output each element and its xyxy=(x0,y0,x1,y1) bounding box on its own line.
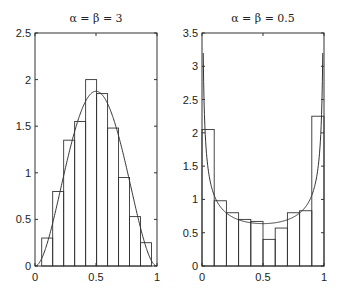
histogram-bar xyxy=(287,213,299,266)
figure: α = β = 300.511.522.500.51 α = β = 0.500… xyxy=(0,0,340,294)
histogram-bars xyxy=(202,116,324,266)
x-tick-label: 0 xyxy=(199,271,205,283)
density-curve xyxy=(35,91,157,266)
y-tick-label: 2 xyxy=(192,127,198,139)
histogram-bar xyxy=(202,130,214,266)
y-tick-label: 0.5 xyxy=(16,213,31,225)
y-tick-label: 1 xyxy=(192,193,198,205)
y-tick-label: 1.5 xyxy=(16,120,31,132)
y-tick-label: 3.5 xyxy=(183,27,198,39)
y-tick-label: 0 xyxy=(192,260,198,272)
histogram-bar xyxy=(226,213,238,266)
histogram-bar xyxy=(86,80,97,266)
histogram-bar xyxy=(64,140,75,266)
histogram-bar xyxy=(251,221,263,266)
histogram-bar xyxy=(300,211,312,266)
y-tick-label: 2.5 xyxy=(183,94,198,106)
histogram-bar xyxy=(239,219,251,266)
histogram-bar xyxy=(119,177,130,266)
chart-title: α = β = 3 xyxy=(69,12,122,25)
histogram-bar xyxy=(75,122,86,266)
beta-histograms-figure: α = β = 300.511.522.500.51 α = β = 0.500… xyxy=(0,0,340,294)
x-tick-label: 0 xyxy=(32,271,38,283)
y-tick-label: 2.5 xyxy=(16,27,31,39)
y-tick-label: 3 xyxy=(192,60,198,72)
panel-alpha-beta-3: α = β = 300.511.522.500.51 xyxy=(16,12,160,283)
axes-box xyxy=(35,33,157,266)
y-tick-label: 2 xyxy=(25,74,31,86)
histogram-bar xyxy=(97,94,108,266)
histogram-bar xyxy=(275,228,287,266)
x-tick-label: 1 xyxy=(154,271,160,283)
x-tick-label: 1 xyxy=(321,271,327,283)
histogram-bars xyxy=(42,80,152,266)
histogram-bar xyxy=(214,201,226,266)
x-tick-label: 0.5 xyxy=(255,271,270,283)
y-axis: 00.511.522.533.5 xyxy=(183,27,324,272)
histogram-bar xyxy=(108,128,119,266)
histogram-bar xyxy=(263,239,275,266)
panel-alpha-beta-0-5: α = β = 0.500.511.522.533.500.51 xyxy=(183,12,327,283)
x-tick-label: 0.5 xyxy=(88,271,103,283)
y-tick-label: 0 xyxy=(25,260,31,272)
density-curve xyxy=(203,53,323,224)
histogram-bar xyxy=(53,191,64,266)
y-tick-label: 1.5 xyxy=(183,160,198,172)
histogram-bar xyxy=(130,217,141,266)
y-tick-label: 0.5 xyxy=(183,227,198,239)
chart-title: α = β = 0.5 xyxy=(231,12,295,25)
y-axis: 00.511.522.5 xyxy=(16,27,157,272)
y-tick-label: 1 xyxy=(25,167,31,179)
